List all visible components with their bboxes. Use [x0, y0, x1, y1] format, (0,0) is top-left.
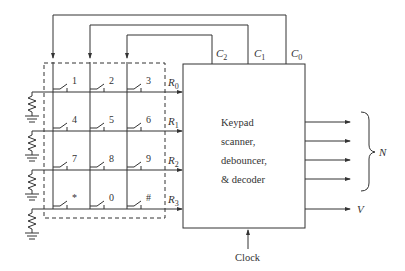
block-label-line: scanner,	[221, 136, 255, 147]
column-labels: C2 C1 C0	[216, 47, 302, 62]
key-label: 8	[109, 153, 114, 164]
pulldown-resistor-r2	[25, 170, 40, 200]
key-label: 0	[109, 192, 114, 203]
key-switches	[53, 84, 141, 209]
pulldown-resistor-r0	[25, 92, 40, 122]
row-label-r2: R2	[167, 154, 179, 169]
row-label-r1: R1	[167, 115, 179, 130]
column-wire-c0	[53, 15, 286, 64]
keypad-circuit-diagram: 1 2 3 4 5 6 7 8 9 * 0 # R0 R1 R2 R3 C2 C…	[0, 0, 405, 271]
block-label: Keypad scanner, debouncer, & decoder	[221, 117, 267, 185]
key-label: 5	[109, 114, 114, 125]
clock-label: Clock	[235, 252, 261, 263]
pulldown-resistor-r1	[25, 131, 40, 161]
key-label: 9	[146, 153, 151, 164]
key-label: 7	[72, 153, 77, 164]
block-label-line: debouncer,	[221, 155, 267, 166]
key-label: 4	[72, 114, 77, 125]
column-label-c1: C1	[254, 47, 265, 62]
key-label: 6	[146, 114, 151, 125]
key-label: 2	[109, 75, 114, 86]
bus-label-n: N	[378, 146, 387, 158]
column-label-c2: C2	[216, 47, 227, 62]
key-label: #	[146, 192, 151, 203]
key-label: *	[72, 192, 77, 203]
block-label-line: & decoder	[221, 174, 266, 185]
key-labels: 1 2 3 4 5 6 7 8 9 * 0 #	[72, 75, 151, 203]
row-labels: R0 R1 R2 R3	[167, 76, 179, 208]
row-label-r3: R3	[167, 193, 179, 208]
block-label-line: Keypad	[221, 117, 254, 128]
pulldown-resistor-r3	[25, 209, 40, 239]
key-label: 3	[146, 75, 151, 86]
row-label-r0: R0	[167, 76, 179, 91]
bus-brace	[361, 112, 375, 191]
column-wire-c2	[127, 35, 212, 64]
key-label: 1	[72, 75, 77, 86]
valid-label-v: V	[357, 203, 365, 215]
column-label-c0: C0	[291, 47, 302, 62]
